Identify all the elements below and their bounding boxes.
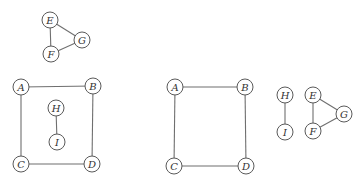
edge-b-d — [92, 86, 93, 164]
node-c: C — [13, 156, 29, 172]
edges-layer — [21, 20, 344, 166]
node-c: C — [166, 158, 182, 174]
node-label: A — [16, 82, 24, 93]
node-i: I — [49, 134, 65, 150]
node-h: H — [48, 100, 64, 116]
node-label: D — [87, 159, 96, 170]
node-f: F — [305, 123, 321, 139]
node-label: F — [47, 49, 56, 60]
node-label: D — [241, 161, 250, 172]
node-d: D — [238, 158, 254, 174]
node-label: H — [51, 103, 61, 114]
node-label: G — [78, 35, 86, 46]
node-label: B — [240, 82, 248, 93]
node-label: C — [170, 161, 178, 172]
node-b: B — [237, 79, 253, 95]
node-e: E — [42, 12, 58, 28]
node-b: B — [85, 78, 101, 94]
node-label: E — [308, 90, 317, 101]
node-g: G — [74, 32, 90, 48]
edge-b-d — [245, 87, 246, 166]
nodes-layer: EFGABCDHIABCDHIEFG — [13, 12, 352, 174]
node-h: H — [277, 87, 293, 103]
node-label: A — [170, 82, 178, 93]
node-e: E — [305, 87, 321, 103]
node-a: A — [13, 79, 29, 95]
node-label: C — [17, 159, 25, 170]
graph-diagram: EFGABCDHIABCDHIEFG — [0, 0, 362, 181]
node-g: G — [336, 106, 352, 122]
node-label: G — [340, 109, 348, 120]
node-label: E — [45, 15, 54, 26]
node-a: A — [167, 79, 183, 95]
node-i: I — [277, 124, 293, 140]
node-label: B — [88, 81, 96, 92]
edge-a-c — [174, 87, 175, 166]
node-f: F — [43, 46, 59, 62]
node-label: H — [280, 90, 290, 101]
edge-a-b — [21, 86, 93, 87]
node-d: D — [84, 156, 100, 172]
node-label: F — [309, 126, 318, 137]
